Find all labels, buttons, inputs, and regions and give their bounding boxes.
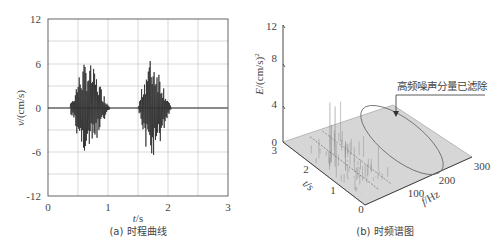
annotation-leader — [396, 95, 485, 113]
panel-b-time-frequency: 12 8 4 0 E/(cm/s)2 3 2 1 0 t/s 100 200 3… — [253, 20, 491, 237]
ytick: 0 — [36, 102, 42, 114]
ytick: -6 — [32, 146, 42, 158]
y-axis-label: v/(cm/s) — [14, 90, 27, 126]
x-axis-label: t/s — [133, 212, 143, 224]
xtick: 3 — [225, 201, 231, 213]
xtick: 1 — [105, 201, 111, 213]
ttick: 1 — [330, 184, 336, 196]
ttick: 0 — [358, 203, 364, 215]
ytick: 6 — [36, 58, 42, 70]
ftick: 200 — [439, 174, 456, 186]
floor-plane — [283, 105, 472, 205]
ztick: 4 — [272, 98, 278, 110]
ztick: 12 — [266, 20, 277, 32]
xtick: 2 — [165, 201, 171, 213]
ztick: 8 — [272, 52, 278, 64]
caption-a: (a) 时程曲线 — [109, 225, 166, 237]
panel-a-time-history: 12 6 0 -6 -12 0 1 2 3 t/s v/(cm/s) (a) 时… — [14, 13, 231, 237]
ytick: -12 — [26, 190, 41, 202]
ttick: 2 — [303, 163, 309, 175]
annotation-label: 高频噪声分量已滤除 — [397, 80, 488, 92]
ttick: 3 — [272, 144, 278, 156]
z-axis-label: E/(cm/s)2 — [253, 53, 266, 96]
caption-b: (b) 时频谱图 — [356, 225, 413, 237]
ftick: 300 — [474, 160, 491, 172]
ytick: 12 — [30, 13, 41, 25]
xtick: 0 — [45, 201, 51, 213]
figure-canvas: 12 6 0 -6 -12 0 1 2 3 t/s v/(cm/s) (a) 时… — [0, 0, 503, 250]
t-axis-label: t/s — [301, 177, 317, 193]
